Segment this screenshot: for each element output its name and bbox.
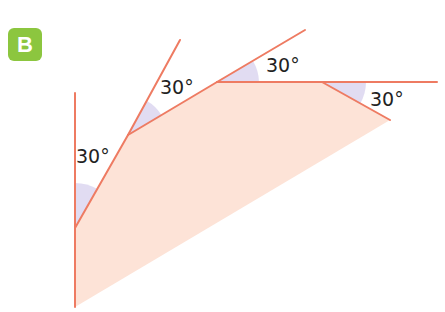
angle-label-4: 30° (370, 88, 404, 110)
angle-label-1: 30° (76, 145, 110, 167)
shaded-region (75, 82, 390, 307)
angle-label-3: 30° (266, 54, 300, 76)
angle-diagram: 30° 30° 30° 30° (0, 0, 445, 312)
angle-label-2: 30° (160, 76, 194, 98)
